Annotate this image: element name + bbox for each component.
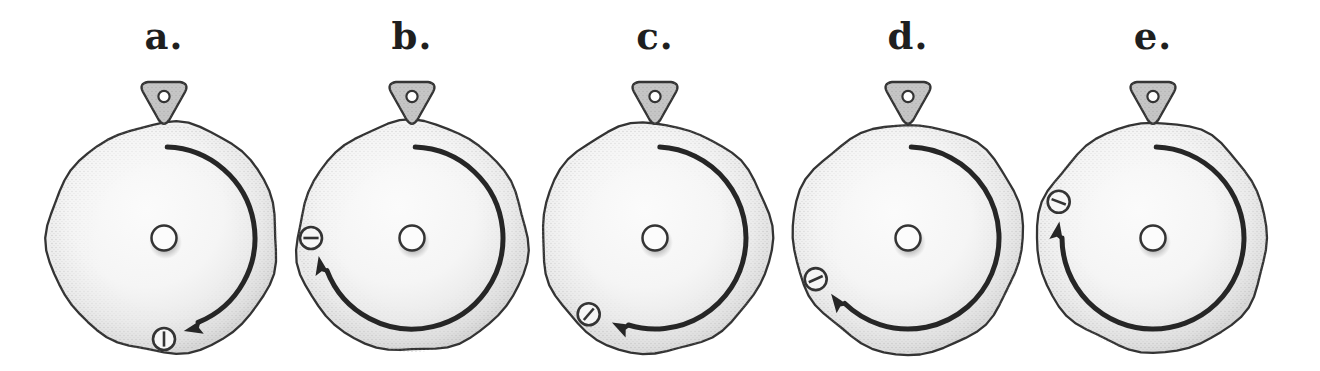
index-pointer-hole bbox=[902, 91, 913, 102]
index-pointer-hole bbox=[1147, 91, 1158, 102]
center-hub bbox=[896, 226, 921, 251]
dial-a-illustration bbox=[39, 70, 289, 371]
center-hub bbox=[400, 226, 425, 251]
dial-drawing bbox=[39, 70, 289, 371]
dial-drawing bbox=[287, 70, 537, 371]
dial-drawing bbox=[530, 70, 780, 371]
index-pointer-hole bbox=[649, 91, 660, 102]
center-hub bbox=[643, 226, 668, 251]
dial-c: c. bbox=[530, 0, 780, 371]
dial-b-illustration bbox=[287, 70, 537, 371]
dial-figure-row: a. b. c. d. e. bbox=[0, 0, 1320, 371]
dial-c-illustration bbox=[530, 70, 780, 371]
dial-drawing bbox=[1028, 70, 1278, 371]
dial-e: e. bbox=[1028, 0, 1278, 371]
dial-d-label: d. bbox=[783, 17, 1033, 56]
dial-e-label: e. bbox=[1028, 17, 1278, 56]
center-hub bbox=[152, 226, 177, 251]
index-pointer-hole bbox=[158, 91, 169, 102]
dial-a-label: a. bbox=[39, 17, 289, 56]
dial-drawing bbox=[783, 70, 1033, 371]
dial-a: a. bbox=[39, 0, 289, 371]
dial-b-label: b. bbox=[287, 17, 537, 56]
dial-d: d. bbox=[783, 0, 1033, 371]
center-hub bbox=[1141, 226, 1166, 251]
dial-e-illustration bbox=[1028, 70, 1278, 371]
dial-b: b. bbox=[287, 0, 537, 371]
index-pointer-hole bbox=[406, 91, 417, 102]
dial-d-illustration bbox=[783, 70, 1033, 371]
dial-c-label: c. bbox=[530, 17, 780, 56]
